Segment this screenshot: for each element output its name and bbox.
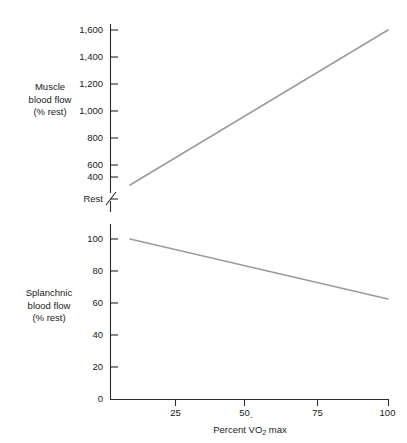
plot-canvas bbox=[0, 0, 407, 443]
upper-ytick-label-rest: Rest bbox=[58, 194, 103, 204]
xtick-label-25: 25 bbox=[157, 408, 194, 418]
upper-ytick-label-1400: 1,400 bbox=[58, 52, 103, 62]
xtick-label-75: 75 bbox=[299, 408, 336, 418]
x-axis-title-suffix: max bbox=[266, 424, 287, 435]
lower-y-axis-title: Splanchnic blood flow (% rest) bbox=[2, 287, 96, 325]
lower-ytick-label-80: 80 bbox=[58, 266, 103, 276]
x-axis-title-subscript: 2 bbox=[262, 429, 266, 436]
upper-y-axis-title: Muscle blood flow (% rest) bbox=[4, 81, 96, 119]
x-axis-title: Percent VO2 max bbox=[150, 424, 350, 437]
upper-ytick-label-800: 800 bbox=[58, 133, 103, 143]
lower-ytick-label-100: 100 bbox=[58, 234, 103, 244]
figure-blood-flow-vs-vo2max: blood flow as the work rate increases. bbox=[0, 0, 407, 443]
upper-y-axis-title-line-2: blood flow bbox=[4, 94, 96, 107]
muscle-blood-flow-line bbox=[130, 30, 388, 185]
lower-panel-axes bbox=[110, 224, 389, 406]
lower-ytick-label-40: 40 bbox=[58, 330, 103, 340]
upper-ytick-label-1600: 1,600 bbox=[58, 25, 103, 35]
xtick-label-50: 50 bbox=[226, 408, 263, 418]
upper-y-axis-title-line-1: Muscle bbox=[4, 81, 96, 94]
upper-panel-axes bbox=[106, 24, 118, 212]
splanchnic-blood-flow-line bbox=[130, 239, 388, 299]
x-axis-title-prefix: Percent bbox=[213, 424, 248, 435]
lower-y-axis-title-line-1: Splanchnic bbox=[2, 287, 96, 300]
upper-ytick-label-400: 400 bbox=[58, 172, 103, 182]
lower-y-axis-title-line-3: (% rest) bbox=[2, 312, 96, 325]
lower-ytick-label-20: 20 bbox=[58, 362, 103, 372]
lower-ytick-label-0: 0 bbox=[58, 394, 103, 404]
upper-y-axis-title-line-3: (% rest) bbox=[4, 106, 96, 119]
upper-ytick-label-600: 600 bbox=[58, 160, 103, 170]
x-axis-title-v-with-dot: V bbox=[249, 424, 255, 436]
xtick-label-100: 100 bbox=[369, 408, 406, 418]
lower-y-axis-title-line-2: blood flow bbox=[2, 300, 96, 313]
